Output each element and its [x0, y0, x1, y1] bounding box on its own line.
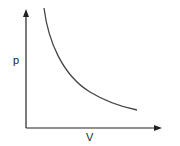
y-axis — [23, 9, 29, 128]
isotherm-curve — [44, 8, 137, 110]
x-axis-label: V — [86, 132, 93, 143]
pv-diagram — [0, 0, 180, 146]
y-axis-label: p — [13, 55, 19, 66]
x-axis — [26, 125, 162, 131]
y-axis-arrow-icon — [23, 9, 29, 17]
x-axis-arrow-icon — [154, 125, 162, 131]
